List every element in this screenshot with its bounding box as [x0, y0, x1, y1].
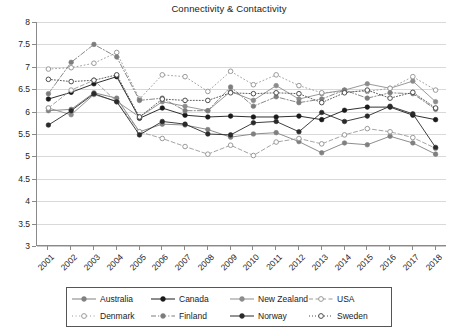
data-point — [297, 83, 302, 88]
legend-item-sweden[interactable]: Sweden — [308, 310, 387, 322]
data-point — [319, 100, 324, 105]
legend-label: Sweden — [337, 311, 368, 321]
data-point — [206, 115, 211, 120]
data-point — [411, 141, 416, 146]
x-tick-mark — [366, 246, 367, 250]
data-point — [433, 152, 438, 157]
data-point — [365, 96, 370, 101]
y-tick-label: 3.5 — [18, 219, 30, 229]
legend-label: New Zealand — [258, 294, 308, 304]
data-point — [183, 104, 188, 109]
y-tick-label: 4.5 — [18, 174, 30, 184]
data-point — [433, 88, 438, 93]
data-point — [251, 104, 256, 109]
x-tick-mark — [298, 246, 299, 250]
legend-item-finland[interactable]: Finland — [150, 310, 229, 322]
x-tick-label: 2005 — [125, 252, 148, 275]
data-point — [69, 108, 74, 113]
y-axis: 33.544.555.566.577.58 — [0, 22, 36, 246]
series-line — [48, 80, 435, 155]
data-point — [388, 90, 393, 95]
legend-item-norway[interactable]: Norway — [229, 310, 308, 322]
plot-area — [36, 22, 446, 246]
legend-item-usa[interactable]: USA — [308, 293, 387, 305]
legend-key-icon — [308, 310, 334, 322]
data-point — [69, 79, 74, 84]
data-point — [433, 106, 438, 111]
data-point — [411, 79, 416, 84]
x-tick-mark — [184, 246, 185, 250]
data-point — [114, 99, 119, 104]
data-point — [206, 98, 211, 103]
x-tick-mark — [207, 246, 208, 250]
legend-key-icon — [229, 293, 255, 305]
data-point — [297, 100, 302, 105]
data-point — [319, 90, 324, 95]
x-tick-mark — [321, 246, 322, 250]
data-point — [183, 144, 188, 149]
x-tick-label: 2011 — [262, 252, 285, 275]
y-tick-label: 7.5 — [18, 39, 30, 49]
x-tick-label: 2004 — [102, 252, 125, 275]
data-point — [297, 114, 302, 119]
x-tick-label: 2010 — [239, 252, 262, 275]
data-point — [319, 117, 324, 122]
legend-key-icon — [308, 293, 334, 305]
data-point — [228, 133, 233, 138]
x-tick-label: 2001 — [34, 252, 57, 275]
legend-key-icon — [150, 310, 176, 322]
data-point — [114, 55, 119, 60]
data-point — [365, 82, 370, 87]
data-point — [228, 69, 233, 74]
x-axis: 2001200220032004200520062007200820092010… — [36, 246, 446, 286]
data-point — [297, 91, 302, 96]
data-point — [228, 143, 233, 148]
data-point — [251, 153, 256, 158]
x-tick-mark — [230, 246, 231, 250]
legend-label: Australia — [100, 294, 133, 304]
data-point — [297, 136, 302, 141]
legend-item-new-zealand[interactable]: New Zealand — [229, 293, 308, 305]
data-point — [160, 119, 165, 124]
data-point — [365, 105, 370, 110]
data-point — [297, 129, 302, 134]
legend-label: Canada — [179, 294, 209, 304]
legend-item-canada[interactable]: Canada — [150, 293, 229, 305]
x-tick-mark — [116, 246, 117, 250]
data-point — [274, 90, 279, 95]
data-point — [342, 108, 347, 113]
data-point — [342, 90, 347, 95]
data-point — [388, 134, 393, 139]
series-new-zealand — [46, 79, 438, 119]
data-point — [137, 133, 142, 138]
data-point — [388, 96, 393, 101]
legend-item-denmark[interactable]: Denmark — [71, 310, 150, 322]
data-point — [251, 91, 256, 96]
data-point — [411, 74, 416, 79]
data-point — [342, 119, 347, 124]
data-point — [411, 112, 416, 117]
data-point — [114, 73, 119, 78]
data-point — [160, 136, 165, 141]
legend-item-australia[interactable]: Australia — [71, 293, 150, 305]
data-point — [342, 133, 347, 138]
data-point — [251, 121, 256, 126]
x-tick-mark — [412, 246, 413, 250]
data-point — [274, 73, 279, 78]
data-point — [251, 82, 256, 87]
data-point — [92, 78, 97, 83]
series-line — [48, 94, 435, 148]
data-point — [319, 142, 324, 147]
x-tick-mark — [139, 246, 140, 250]
data-point — [46, 97, 51, 102]
x-tick-label: 2008 — [193, 252, 216, 275]
data-point — [365, 88, 370, 93]
data-point — [46, 77, 51, 82]
data-point — [69, 88, 74, 93]
data-point — [319, 151, 324, 156]
data-point — [365, 142, 370, 147]
x-tick-mark — [47, 246, 48, 250]
legend-key-icon — [229, 310, 255, 322]
x-tick-mark — [93, 246, 94, 250]
data-point — [388, 129, 393, 134]
